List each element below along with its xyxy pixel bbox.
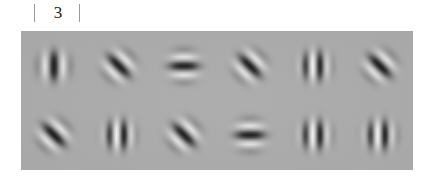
gabor-cell-r1c1 — [21, 31, 86, 101]
gabor-cell-r2c1 — [21, 101, 86, 171]
gabor-grating — [27, 108, 81, 162]
gabor-cell-r2c3 — [152, 101, 217, 171]
gabor-cell-r1c4 — [217, 31, 282, 101]
gabor-cell-r2c5 — [282, 101, 347, 171]
gabor-grating — [92, 108, 146, 162]
gabor-patch — [27, 39, 81, 93]
gabor-grating — [223, 108, 277, 162]
tick-mark-left-icon — [34, 4, 35, 22]
page-number: 3 — [44, 1, 72, 25]
gabor-cell-r1c5 — [282, 31, 347, 101]
gabor-patch — [92, 108, 146, 162]
gabor-patch — [92, 39, 146, 93]
gabor-grating — [288, 39, 342, 93]
gabor-patch — [353, 39, 407, 93]
gabor-cell-r2c4 — [217, 101, 282, 171]
gabor-grating — [157, 39, 211, 93]
gabor-cell-r1c3 — [152, 31, 217, 101]
gabor-cell-r2c2 — [86, 101, 151, 171]
gabor-grating — [157, 108, 211, 162]
gabor-cell-r1c2 — [86, 31, 151, 101]
gabor-cell-r1c6 — [348, 31, 413, 101]
gabor-grating — [288, 108, 342, 162]
gabor-patch — [353, 108, 407, 162]
gabor-stimulus-panel — [21, 31, 413, 170]
gabor-grating — [353, 108, 407, 162]
figure-header: 3 — [0, 0, 439, 31]
tick-mark-right-icon — [79, 4, 80, 22]
gabor-patch — [157, 39, 211, 93]
gabor-cell-r2c6 — [348, 101, 413, 171]
gabor-grid — [21, 31, 413, 170]
gabor-patch — [27, 108, 81, 162]
gabor-patch — [288, 39, 342, 93]
gabor-patch — [288, 108, 342, 162]
gabor-grating — [353, 39, 407, 93]
gabor-patch — [223, 39, 277, 93]
gabor-grating — [92, 39, 146, 93]
gabor-patch — [157, 108, 211, 162]
gabor-grating — [223, 39, 277, 93]
gabor-grating — [27, 39, 81, 93]
gabor-patch — [223, 108, 277, 162]
